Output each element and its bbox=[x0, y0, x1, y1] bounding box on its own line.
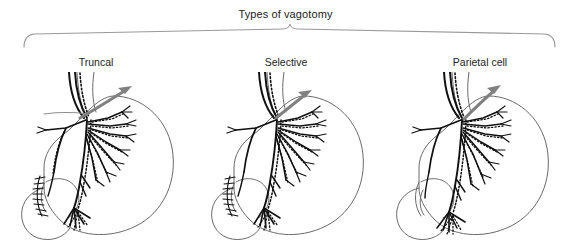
duodenum-outline bbox=[22, 188, 70, 240]
panel-label-parietal: Parietal cell bbox=[415, 56, 545, 68]
diagram-selective bbox=[198, 72, 380, 250]
duodenum-outline bbox=[212, 188, 260, 240]
stomach-outline bbox=[44, 96, 173, 235]
crows-foot-antral-branches bbox=[64, 208, 90, 228]
resection-arrow-head bbox=[487, 85, 501, 94]
vagal-trunk-fiber-dots bbox=[270, 73, 279, 117]
grouping-brace bbox=[0, 22, 571, 48]
panel-label-truncal: Truncal bbox=[36, 56, 156, 68]
crows-foot-antral-branches bbox=[254, 208, 280, 228]
vagotomy-figure: Types of vagotomy Truncal Selective Pari… bbox=[0, 0, 571, 250]
stomach-outline bbox=[234, 96, 363, 235]
diagram-parietal-cell bbox=[383, 72, 565, 250]
vagal-trunk-fiber-dots bbox=[80, 73, 89, 117]
figure-title: Types of vagotomy bbox=[0, 8, 571, 20]
vagal-branch-network bbox=[412, 106, 511, 232]
stomach-outline bbox=[419, 96, 548, 235]
diagram-truncal bbox=[8, 72, 190, 250]
vagal-trunk-fiber-dots bbox=[455, 73, 464, 117]
panel-label-selective: Selective bbox=[226, 56, 346, 68]
resection-arrow-shaft bbox=[276, 94, 306, 118]
